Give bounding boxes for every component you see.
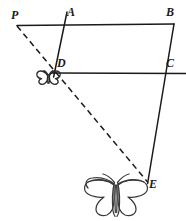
butterfly-large-at-E	[85, 174, 148, 216]
solid-lines-group	[17, 12, 186, 184]
line-PE-dashed	[17, 26, 148, 183]
geometry-figure: P A B D C E	[0, 0, 186, 221]
vertex-label-D: D	[57, 57, 66, 69]
vertex-label-B: B	[166, 6, 174, 18]
vertex-label-C: C	[166, 57, 174, 69]
line-BE	[148, 24, 174, 184]
dashed-lines-group	[17, 26, 148, 183]
vertex-label-E: E	[149, 178, 157, 190]
figure-canvas	[0, 0, 186, 221]
line-PB	[17, 24, 174, 26]
vertex-label-P: P	[11, 9, 18, 21]
vertex-label-A: A	[67, 6, 75, 18]
